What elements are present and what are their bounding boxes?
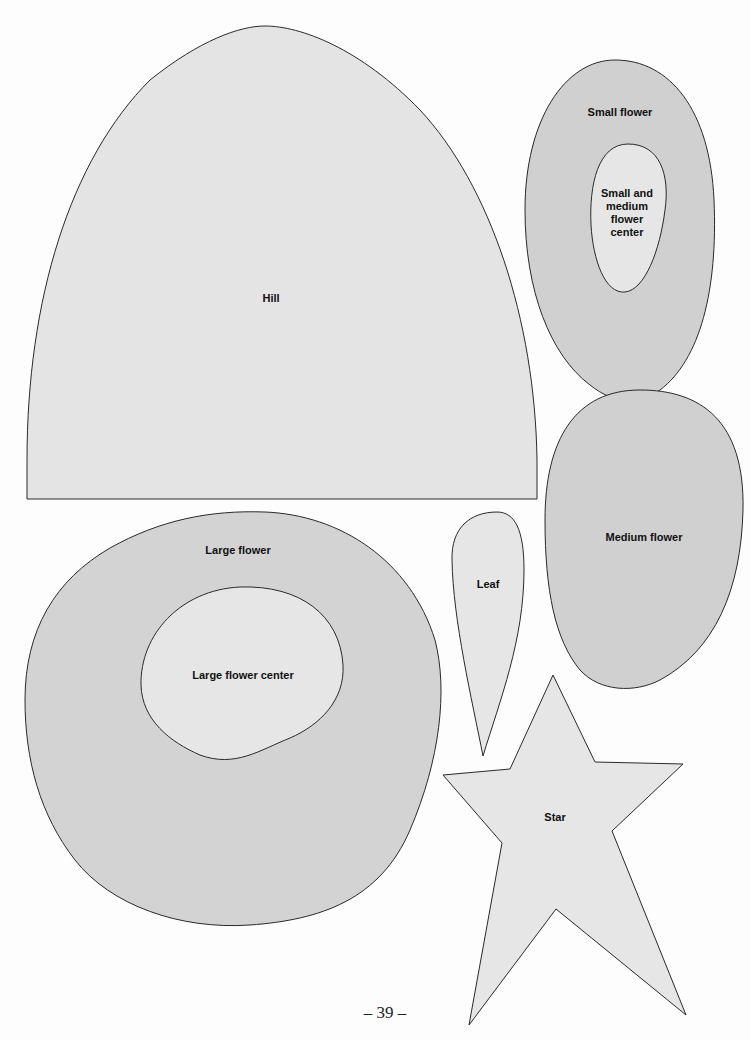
center-label-line-1: Small and <box>592 187 662 200</box>
leaf-shape <box>452 512 524 756</box>
leaf-label: Leaf <box>477 578 500 591</box>
star-label: Star <box>544 811 565 824</box>
center-label-line-2: medium <box>592 200 662 213</box>
hill-label: Hill <box>262 292 279 305</box>
page-number: – 39 – <box>364 1003 407 1023</box>
medium-flower-label: Medium flower <box>605 531 682 544</box>
center-label-line-4: center <box>592 226 662 239</box>
template-shapes <box>0 0 751 1040</box>
large-flower-label: Large flower <box>205 544 270 557</box>
pattern-page: Hill Small flower Small and medium flowe… <box>0 0 751 1040</box>
small-medium-flower-center-label: Small and medium flower center <box>592 187 662 239</box>
hill-shape <box>27 26 537 499</box>
large-flower-center-label: Large flower center <box>192 669 293 682</box>
center-label-line-3: flower <box>592 213 662 226</box>
small-flower-label: Small flower <box>588 106 653 119</box>
